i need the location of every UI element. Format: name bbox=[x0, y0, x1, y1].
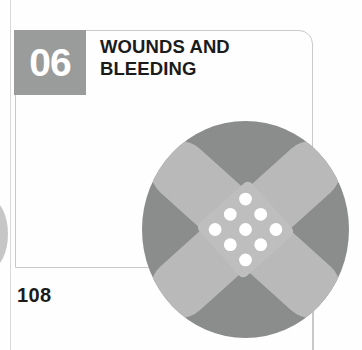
adhesive-bandage-icon bbox=[142, 121, 349, 338]
book-page: 06 WOUNDS AND BLEEDING 108 bbox=[0, 0, 362, 350]
page-gutter-line bbox=[10, 0, 11, 350]
chapter-header: 06 WOUNDS AND BLEEDING bbox=[14, 30, 230, 95]
page-number: 108 bbox=[17, 284, 52, 307]
facing-page-bleed-circle bbox=[0, 200, 8, 268]
chapter-number: 06 bbox=[29, 43, 70, 82]
chapter-number-badge: 06 bbox=[14, 30, 86, 95]
chapter-title: WOUNDS AND BLEEDING bbox=[100, 36, 230, 81]
